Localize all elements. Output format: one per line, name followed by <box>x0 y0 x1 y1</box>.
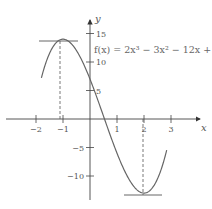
y-tick-label: 5 <box>96 87 101 96</box>
x-tick-label: −1 <box>57 125 69 134</box>
x-tick-label: 3 <box>168 125 173 134</box>
x-ticks: −2−1123 <box>30 115 173 134</box>
y-axis-label: y <box>94 13 101 24</box>
x-axis-label: x <box>201 122 207 133</box>
x-tick-label: 2 <box>141 125 146 134</box>
function-label: f(x) = 2x³ − 3x² − 12x + 7 <box>94 44 212 55</box>
x-tick-label: 1 <box>114 125 119 134</box>
y-tick-label: 10 <box>96 58 106 67</box>
x-tick-label: −2 <box>30 125 42 134</box>
y-tick-label: 15 <box>96 30 106 39</box>
function-graph: −2−1123 15105−5−10 x y f(x) = 2x³ − 3x² … <box>0 0 212 209</box>
y-tick-label: −10 <box>67 172 84 181</box>
y-tick-label: −5 <box>72 144 84 153</box>
